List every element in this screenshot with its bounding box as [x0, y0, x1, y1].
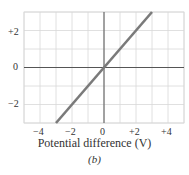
y-tick-label: +2	[8, 27, 19, 37]
x-axis-label: Potential difference (V)	[0, 136, 189, 151]
y-tick-label: 0	[13, 62, 18, 72]
figure-caption: (b)	[0, 153, 189, 165]
y-tick-label: −2	[8, 99, 19, 109]
